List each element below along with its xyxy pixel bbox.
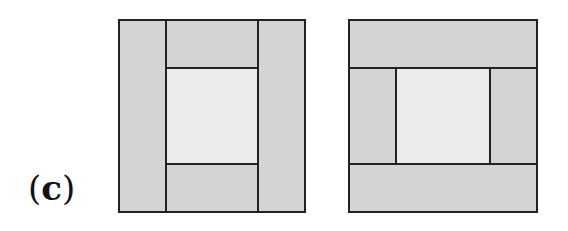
- right-square-diagram: [349, 20, 537, 212]
- left-square-diagram: [119, 20, 305, 212]
- diagram-canvas: [0, 0, 568, 231]
